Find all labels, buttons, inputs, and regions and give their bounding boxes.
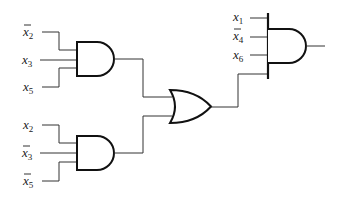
and-gate-1: x2 x3 x5	[21, 24, 172, 97]
label-x6: x6	[232, 47, 244, 64]
label-x5: x5	[22, 79, 34, 96]
wire-and1-in3	[42, 68, 77, 87]
and-gate-3: x1 x4 x6	[232, 9, 325, 79]
label-x1: x1	[232, 9, 243, 26]
or-gate	[170, 74, 268, 123]
logic-circuit: x2 x3 x5 x2 x3 x5 x1 x4 x6	[0, 0, 345, 197]
or-gate-body	[170, 90, 211, 123]
wire-and1-in1	[42, 32, 77, 50]
label-x2: x2	[22, 117, 33, 134]
wire-and2-out	[114, 116, 172, 153]
and-gate-body	[77, 42, 114, 76]
wire-or-out	[211, 74, 268, 107]
label-x3-bar: x3	[21, 145, 33, 162]
label-x4-bar: x4	[232, 28, 244, 45]
and-gate-2: x2 x3 x5	[21, 116, 172, 190]
and-gate-body	[268, 29, 306, 63]
wire-and2-in3	[42, 162, 77, 181]
wire-and2-in1	[42, 125, 77, 143]
label-x3: x3	[21, 52, 33, 69]
wire-and1-out	[114, 59, 172, 97]
and-gate-body	[77, 136, 114, 170]
label-x2-bar: x2	[22, 24, 33, 41]
label-x5-bar: x5	[22, 173, 34, 190]
